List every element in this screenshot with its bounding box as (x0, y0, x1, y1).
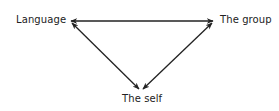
node-label-self: The self (122, 93, 162, 105)
edge-language-self (72, 23, 139, 89)
triangle-diagram: Language The group The self (0, 0, 279, 111)
node-label-language: Language (16, 14, 66, 26)
edge-group-self (143, 23, 212, 89)
node-label-group: The group (220, 14, 272, 26)
